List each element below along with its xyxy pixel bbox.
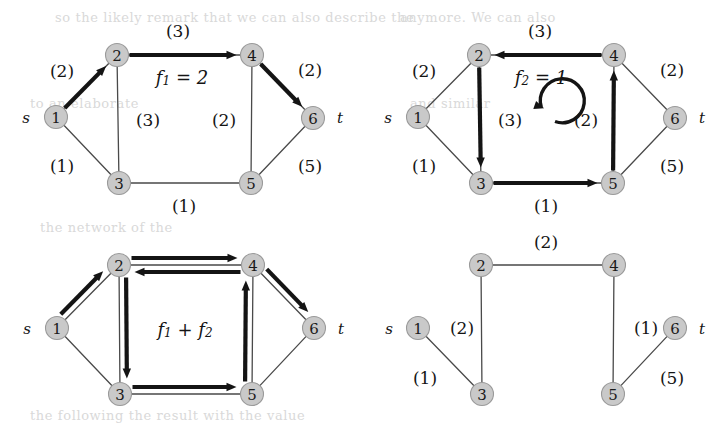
source-marker-bottom-left: s xyxy=(23,320,31,338)
edge-2-3-flow-arrow xyxy=(479,67,480,159)
node-label-4: 4 xyxy=(609,257,619,275)
node-bottom-left-4[interactable]: 4 xyxy=(242,254,265,277)
capacity-label-4-5: (2) xyxy=(212,110,236,130)
node-top-left-1[interactable]: 1 xyxy=(45,106,68,129)
node-label-5: 5 xyxy=(247,386,257,404)
node-top-right-1[interactable]: 1 xyxy=(407,106,430,129)
source-marker-top-right: s xyxy=(384,109,392,127)
node-label-1: 1 xyxy=(413,320,423,338)
capacity-label-2-4: (3) xyxy=(166,21,190,41)
capacity-label-1-3: (1) xyxy=(412,156,436,176)
node-top-right-3[interactable]: 3 xyxy=(470,172,493,195)
node-bottom-right-4[interactable]: 4 xyxy=(603,254,626,277)
node-bottom-right-1[interactable]: 1 xyxy=(407,317,430,340)
node-label-5: 5 xyxy=(608,175,618,193)
capacity-label-2-4: (2) xyxy=(534,232,558,252)
node-label-1: 1 xyxy=(51,109,61,127)
flow-annotation-top-right: f2 = 1 xyxy=(513,67,567,89)
capacity-label-1-3: (1) xyxy=(50,156,74,176)
node-label-3: 3 xyxy=(476,175,486,193)
flow-subscript: 2 xyxy=(521,74,530,88)
node-label-4: 4 xyxy=(609,47,619,65)
edge-2-3-thin xyxy=(119,276,120,382)
node-label-2: 2 xyxy=(474,47,484,65)
edge-2-3-flow-arrow xyxy=(126,277,127,370)
node-label-6: 6 xyxy=(670,110,680,128)
ghost-text-4: the network of the xyxy=(40,220,173,235)
capacity-label-2-3: (3) xyxy=(136,110,160,130)
node-bottom-left-1[interactable]: 1 xyxy=(46,317,69,340)
capacity-label-4-5: (1) xyxy=(634,318,658,338)
node-top-left-4[interactable]: 4 xyxy=(241,44,264,67)
flow-subscript: 1 xyxy=(163,74,171,88)
capacity-label-4-6: (2) xyxy=(660,60,684,80)
edge-2-3-thin xyxy=(481,276,482,382)
node-bottom-left-6[interactable]: 6 xyxy=(303,317,326,340)
capacity-label-2-3: (3) xyxy=(498,110,522,130)
capacity-label-4-2: (3) xyxy=(528,21,552,41)
flow-annotation-top-left: f1 = 2 xyxy=(154,67,208,89)
node-bottom-right-6[interactable]: 6 xyxy=(664,317,687,340)
node-top-right-5[interactable]: 5 xyxy=(602,172,625,195)
node-label-4: 4 xyxy=(248,257,258,275)
flow-operator: + xyxy=(172,319,199,340)
flow-value: = 2 xyxy=(170,67,208,88)
ghost-text-2: to an elaborate xyxy=(30,96,139,111)
node-top-left-5[interactable]: 5 xyxy=(240,172,263,195)
edge-4-5-thin xyxy=(252,276,253,382)
node-label-1: 1 xyxy=(52,320,62,338)
capacity-label-3-5: (1) xyxy=(534,196,558,216)
flow-annotation-bottom-left: f1 + f2 xyxy=(155,319,212,341)
sink-marker-top-left: t xyxy=(337,109,344,127)
ghost-text-0: so the likely remark that we can also de… xyxy=(55,10,414,25)
node-label-3: 3 xyxy=(115,386,125,404)
sink-marker-bottom-right: t xyxy=(699,320,706,338)
capacity-label-2-3: (2) xyxy=(450,318,474,338)
network-flow-figure: so the likely remark that we can also de… xyxy=(0,0,723,427)
capacity-label-1-3: (1) xyxy=(413,368,437,388)
source-marker-top-left: s xyxy=(22,109,30,127)
capacity-label-4-6: (2) xyxy=(298,60,322,80)
flow-sub-2: 2 xyxy=(204,326,213,340)
sink-marker-bottom-left: t xyxy=(338,320,345,338)
capacity-label-1-2: (2) xyxy=(412,61,436,81)
flow-value: = 1 xyxy=(529,67,567,88)
figure-canvas: so the likely remark that we can also de… xyxy=(0,0,723,427)
node-bottom-left-2[interactable]: 2 xyxy=(108,254,131,277)
capacity-label-5-6: (5) xyxy=(660,368,684,388)
node-label-1: 1 xyxy=(413,109,423,127)
node-top-left-2[interactable]: 2 xyxy=(106,44,129,67)
node-bottom-left-3[interactable]: 3 xyxy=(109,383,132,406)
node-label-3: 3 xyxy=(477,386,487,404)
node-label-2: 2 xyxy=(112,47,122,65)
edge-4-5-thin xyxy=(613,276,614,382)
node-top-right-4[interactable]: 4 xyxy=(603,44,626,67)
ghost-text-5: the following the result with the value xyxy=(30,408,305,423)
node-label-5: 5 xyxy=(608,386,618,404)
node-bottom-right-5[interactable]: 5 xyxy=(602,383,625,406)
node-label-3: 3 xyxy=(114,175,124,193)
source-marker-bottom-right: s xyxy=(385,320,393,338)
node-bottom-right-3[interactable]: 3 xyxy=(471,383,494,406)
capacity-label-3-5: (1) xyxy=(172,196,196,216)
node-bottom-right-2[interactable]: 2 xyxy=(470,254,493,277)
edge-4-5-thin xyxy=(251,66,252,171)
node-label-2: 2 xyxy=(476,257,486,275)
edge-5-4-flow-arrow xyxy=(613,79,614,171)
capacity-label-5-6: (5) xyxy=(298,156,322,176)
node-top-left-3[interactable]: 3 xyxy=(108,172,131,195)
node-label-4: 4 xyxy=(247,47,257,65)
node-label-6: 6 xyxy=(670,320,680,338)
node-label-2: 2 xyxy=(114,257,124,275)
node-top-right-2[interactable]: 2 xyxy=(468,44,491,67)
node-top-left-6[interactable]: 6 xyxy=(302,107,325,130)
node-bottom-left-5[interactable]: 5 xyxy=(241,383,264,406)
flow-sub-1: 1 xyxy=(164,326,172,340)
node-label-6: 6 xyxy=(309,320,319,338)
edge-5-4-flow-arrow xyxy=(245,289,246,382)
sink-marker-top-right: t xyxy=(699,109,706,127)
node-top-right-6[interactable]: 6 xyxy=(664,107,687,130)
capacity-label-1-2: (2) xyxy=(50,61,74,81)
node-label-6: 6 xyxy=(308,110,318,128)
capacity-label-5-4: (2) xyxy=(574,110,598,130)
